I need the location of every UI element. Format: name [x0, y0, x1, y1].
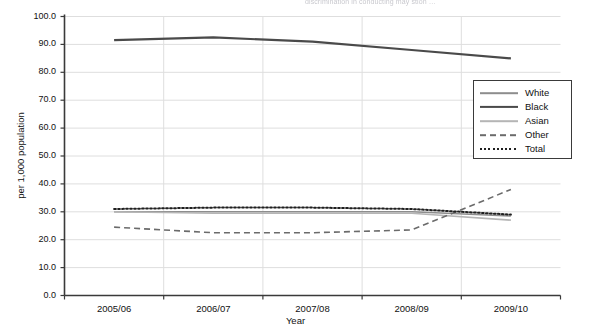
chart-container: discrimination in conducting may stion …… [0, 0, 591, 335]
line-chart-plot [0, 0, 591, 335]
x-tick-label: 2007/08 [273, 303, 353, 314]
legend-item-white[interactable]: White [474, 86, 571, 100]
y-tick-label: 50.0 [6, 150, 56, 160]
x-axis-title: Year [0, 315, 591, 326]
legend-swatch-white-icon [480, 87, 518, 99]
y-tick-label: 10.0 [6, 262, 56, 272]
legend-label: Black [525, 101, 548, 113]
y-axis-title: per 1,000 population [15, 106, 26, 206]
legend-swatch-black-icon [480, 101, 518, 113]
series-line-black [114, 37, 511, 58]
y-tick-label: 80.0 [6, 66, 56, 76]
legend-swatch-asian-icon [480, 115, 518, 127]
y-tick-label: 70.0 [6, 94, 56, 104]
x-tick-label: 2005/06 [74, 303, 154, 314]
legend-label: Total [525, 143, 545, 155]
y-tick-label: 0.0 [6, 290, 56, 300]
legend-label: Other [525, 129, 549, 141]
legend-label: White [525, 87, 549, 99]
x-tick-label: 2009/10 [471, 303, 551, 314]
y-tick-label: 20.0 [6, 234, 56, 244]
legend-label: Asian [525, 115, 549, 127]
y-tick-label: 60.0 [6, 122, 56, 132]
legend-item-total[interactable]: Total [474, 142, 571, 156]
legend-swatch-total-icon [480, 143, 518, 155]
y-tick-label: 40.0 [6, 178, 56, 188]
y-tick-label: 90.0 [6, 38, 56, 48]
data-series [114, 37, 511, 232]
legend-item-asian[interactable]: Asian [474, 114, 571, 128]
chart-legend: WhiteBlackAsianOtherTotal [473, 80, 572, 159]
x-tick-label: 2008/09 [372, 303, 452, 314]
legend-item-other[interactable]: Other [474, 128, 571, 142]
legend-swatch-other-icon [480, 129, 518, 141]
y-tick-label: 100.0 [6, 11, 56, 21]
x-tick-label: 2006/07 [173, 303, 253, 314]
y-tick-label: 30.0 [6, 206, 56, 216]
legend-item-black[interactable]: Black [474, 100, 571, 114]
